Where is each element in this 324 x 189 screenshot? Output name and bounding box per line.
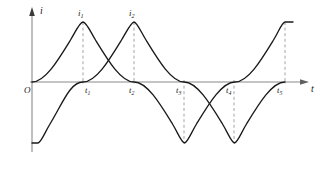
y-axis bbox=[29, 7, 35, 152]
tick-label-t4-sub: 4 bbox=[228, 90, 231, 96]
peak-label-i1: i1 bbox=[78, 9, 84, 19]
tick-label-t3: t3 bbox=[176, 86, 181, 96]
peak-label-i1-sub: 1 bbox=[81, 13, 84, 19]
tick-label-t5-sub: 5 bbox=[279, 90, 282, 96]
y-axis-label: i bbox=[40, 6, 43, 16]
tick-label-t1: t1 bbox=[85, 86, 90, 96]
x-axis bbox=[30, 79, 309, 85]
tick-label-t5: t5 bbox=[277, 86, 282, 96]
x-axis-label: t bbox=[311, 84, 314, 94]
peak-label-i2: i2 bbox=[129, 9, 135, 19]
tick-label-t1-sub: 1 bbox=[87, 90, 90, 96]
origin-label: O bbox=[24, 86, 31, 95]
x-axis-arrow bbox=[300, 79, 309, 85]
tick-label-t2: t2 bbox=[129, 86, 134, 96]
tick-label-t3-sub: 3 bbox=[178, 90, 181, 96]
tick-label-t4: t4 bbox=[226, 86, 231, 96]
tick-label-t2-sub: 2 bbox=[131, 90, 134, 96]
y-axis-arrow bbox=[29, 7, 35, 16]
waveform-plot bbox=[0, 0, 324, 189]
peak-label-i2-sub: 2 bbox=[132, 13, 135, 19]
waveform-figure: i t O i1 i2 t1 t2 t3 t4 t5 bbox=[0, 0, 324, 189]
